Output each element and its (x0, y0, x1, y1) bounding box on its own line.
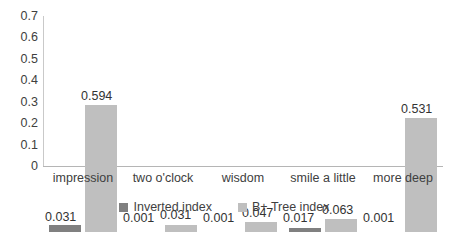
bar-value-label: 0.531 (401, 103, 432, 116)
x-category-label: two o'clock (123, 172, 203, 186)
y-tick-label: 0.7 (4, 10, 38, 23)
x-category-label: smile a little (283, 172, 363, 186)
legend-item-bplus-tree-index[interactable]: B+ Tree index (238, 201, 329, 214)
y-tick-label: 0.6 (4, 31, 38, 44)
x-category-label: impression (43, 172, 123, 186)
bar-inverted-index (209, 232, 241, 233)
legend-swatch-icon (238, 203, 247, 212)
bar-bplus-tree-index (325, 219, 357, 233)
legend-label: B+ Tree index (252, 201, 329, 214)
bar-bplus-tree-index (165, 225, 197, 232)
bar-inverted-index (129, 232, 161, 233)
legend-label: Inverted index (133, 201, 212, 214)
y-tick-label: 0.5 (4, 53, 38, 66)
y-tick-label: 0.3 (4, 95, 38, 108)
y-tick-label: 0.4 (4, 74, 38, 87)
bar-inverted-index (49, 225, 81, 232)
x-category-label: more deep (363, 172, 443, 186)
y-axis-tick-labels: 0.7 0.6 0.5 0.4 0.3 0.2 0.1 0 (0, 0, 38, 232)
x-category-label: wisdom (203, 172, 283, 186)
legend-item-inverted-index[interactable]: Inverted index (119, 201, 212, 214)
bar-chart: 0.7 0.6 0.5 0.4 0.3 0.2 0.1 0 0.031 0.59… (0, 0, 449, 232)
bar-bplus-tree-index (245, 222, 277, 232)
y-tick-label: 0.1 (4, 138, 38, 151)
y-tick-label: 0.2 (4, 117, 38, 130)
legend-swatch-icon (119, 203, 128, 212)
y-tick-label: 0 (4, 160, 38, 173)
chart-legend: Inverted index B+ Tree index (0, 201, 449, 214)
bar-inverted-index (289, 228, 321, 232)
bar-value-label: 0.594 (81, 90, 112, 103)
bar-inverted-index (369, 232, 401, 233)
